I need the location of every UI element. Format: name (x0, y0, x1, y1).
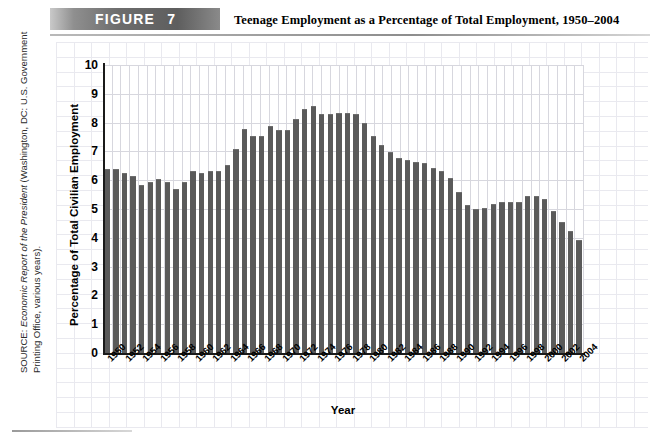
bar (508, 202, 513, 353)
figure-header: FIGURE 7 Teenage Employment as a Percent… (50, 8, 650, 32)
bar (439, 171, 444, 353)
bar (139, 185, 144, 353)
bar-cell (249, 65, 258, 353)
y-tick-label: 2 (91, 288, 98, 302)
bar (259, 136, 264, 353)
bar (242, 129, 247, 353)
bar (345, 113, 350, 353)
bar (250, 136, 255, 353)
figure-badge-number: 7 (167, 11, 175, 27)
bar-cell (129, 65, 138, 353)
bar-cell (180, 65, 189, 353)
bar-cell (266, 65, 275, 353)
bar-cell (197, 65, 206, 353)
bar (199, 173, 204, 353)
bar-cell (137, 65, 146, 353)
bar (216, 171, 221, 353)
bar (422, 163, 427, 353)
bar (534, 196, 539, 353)
bar-cell (215, 65, 224, 353)
bar (182, 182, 187, 353)
bar (190, 171, 195, 353)
bar-cell (309, 65, 318, 353)
bar-cell (240, 65, 249, 353)
bar-cell (292, 65, 301, 353)
x-axis-title: Year (103, 404, 583, 416)
bar (113, 169, 118, 353)
x-axis-ticks: 1950195219541956195819601962196419661968… (103, 356, 583, 402)
bar-cell (575, 65, 584, 353)
bar-cell (300, 65, 309, 353)
source-note: SOURCE: Economic Report of the President… (17, 13, 43, 373)
bar (233, 149, 238, 353)
y-tick-label: 4 (91, 231, 98, 245)
bar-cell (549, 65, 558, 353)
bar-series (103, 65, 583, 353)
y-tick-label: 3 (91, 260, 98, 274)
figure-badge-label: FIGURE (95, 11, 155, 27)
bar (379, 145, 384, 353)
bar-cell (163, 65, 172, 353)
bar (208, 171, 213, 353)
bar-cell (172, 65, 181, 353)
bar (525, 196, 530, 353)
bar-cell (498, 65, 507, 353)
header-divider (50, 34, 650, 36)
bar-cell (558, 65, 567, 353)
bar (448, 178, 453, 353)
bar (268, 126, 273, 353)
bar-cell (480, 65, 489, 353)
bar-cell (112, 65, 121, 353)
bar-cell (343, 65, 352, 353)
bar-cell (206, 65, 215, 353)
y-tick-label: 5 (91, 202, 98, 216)
bar (413, 162, 418, 353)
figure-title: Teenage Employment as a Percentage of To… (234, 8, 619, 32)
bar-cell (403, 65, 412, 353)
bar (559, 222, 564, 353)
bar-cell (395, 65, 404, 353)
bar (225, 165, 230, 353)
bar (499, 202, 504, 353)
bar-cell (506, 65, 515, 353)
bar (431, 168, 436, 353)
bar-cell (386, 65, 395, 353)
bar-cell (429, 65, 438, 353)
bar (362, 123, 367, 353)
bar (336, 113, 341, 353)
bar-cell (523, 65, 532, 353)
bar (276, 130, 281, 353)
bar-cell (438, 65, 447, 353)
bar (353, 114, 358, 353)
bar (482, 208, 487, 353)
bar-cell (489, 65, 498, 353)
bar-cell (463, 65, 472, 353)
bar (173, 189, 178, 353)
bar (473, 209, 478, 353)
bar-cell (540, 65, 549, 353)
bar-cell (120, 65, 129, 353)
bar-cell (257, 65, 266, 353)
source-divider (12, 430, 132, 432)
y-tick-label: 6 (91, 173, 98, 187)
bar (122, 173, 127, 353)
bar (396, 158, 401, 353)
bar-cell (326, 65, 335, 353)
bar-cell (515, 65, 524, 353)
bar (302, 109, 307, 353)
bar-cell (360, 65, 369, 353)
bar-cell (378, 65, 387, 353)
bar (576, 240, 581, 353)
bar (105, 169, 110, 353)
bar (311, 106, 316, 353)
bar (293, 119, 298, 353)
bar (285, 130, 290, 353)
bar-cell (146, 65, 155, 353)
source-prefix: SOURCE: (18, 327, 29, 373)
bar-cell (154, 65, 163, 353)
bar (130, 176, 135, 353)
bar (456, 192, 461, 353)
bar (165, 182, 170, 353)
bar (491, 204, 496, 353)
bar (156, 179, 161, 353)
